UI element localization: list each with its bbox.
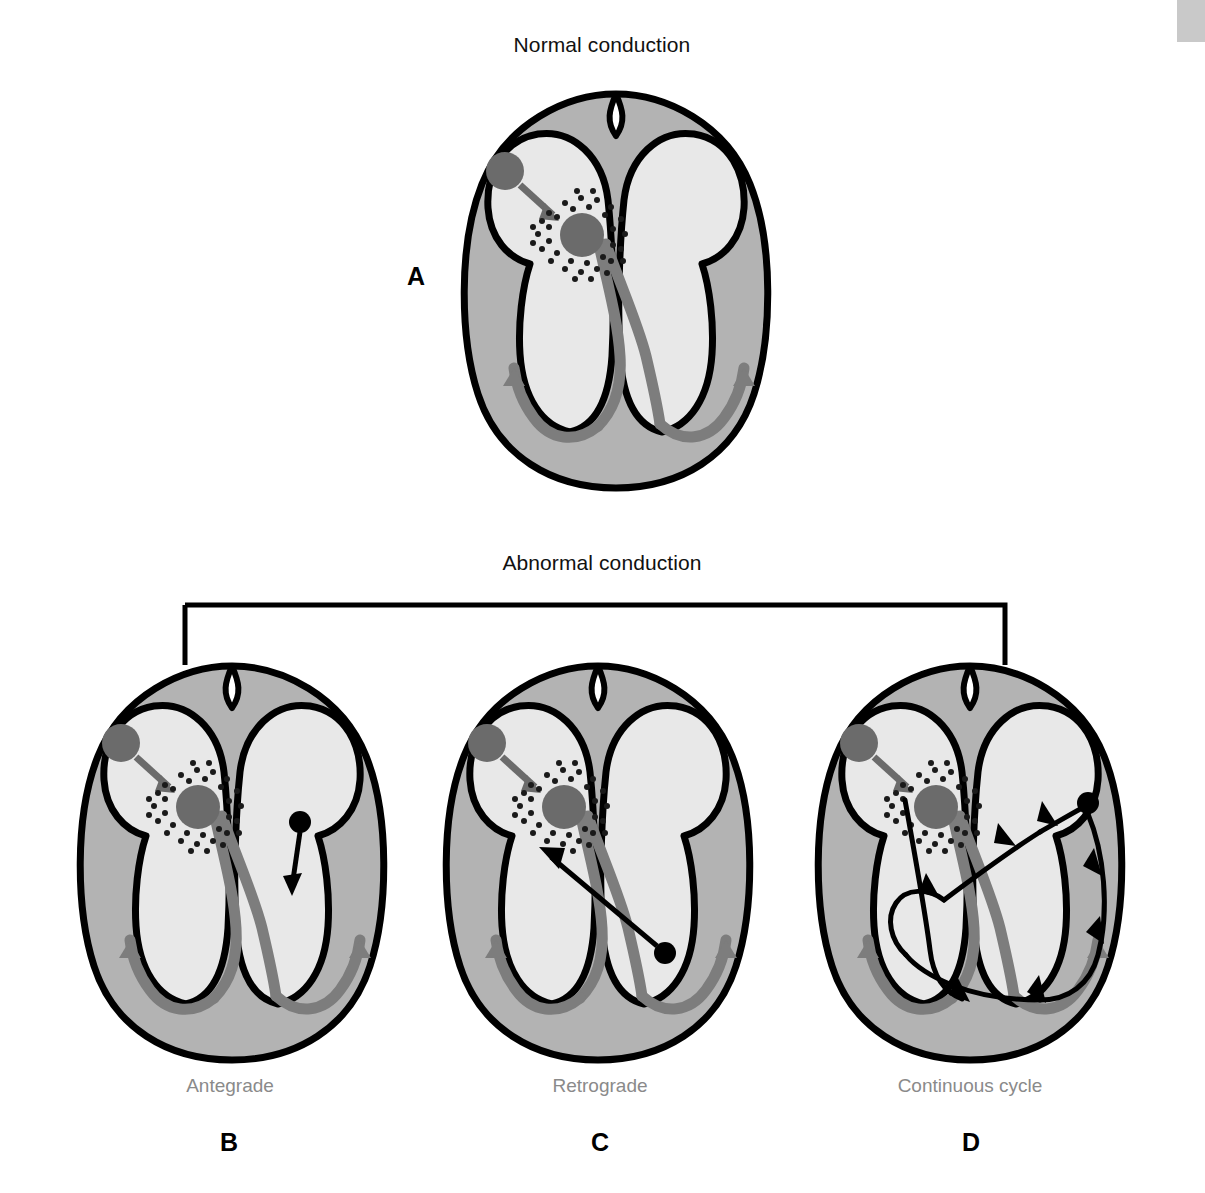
panel-c-heart bbox=[446, 666, 750, 1060]
abnormal-conduction-bracket bbox=[185, 605, 1005, 665]
figure-root: Normal conduction Abnormal conduction A … bbox=[0, 0, 1205, 1193]
panel-d-heart bbox=[818, 666, 1122, 1060]
panel-b-heart bbox=[80, 666, 384, 1060]
panel-a-heart bbox=[464, 94, 768, 488]
diagram-canvas bbox=[0, 0, 1205, 1193]
